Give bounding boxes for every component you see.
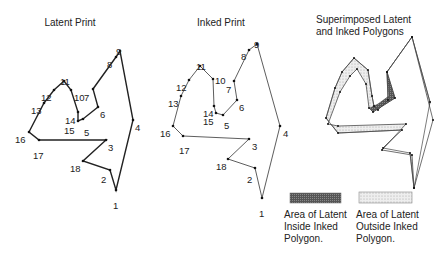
legend-swatch-inside [290, 193, 341, 203]
latent-print-polygon: 123456789101112131415161718 [15, 46, 140, 211]
legend-swatch-outside [359, 192, 412, 203]
point-label: 11 [196, 61, 206, 72]
superimposed-title-line2: and Inked Polygons [316, 26, 436, 38]
superimposed-polygons [325, 36, 434, 189]
minutia-point [222, 114, 225, 117]
minutia-point [233, 80, 236, 83]
minutia-point [236, 99, 239, 102]
minutia-point [213, 105, 216, 108]
point-label: 4 [135, 122, 140, 133]
point-label: 6 [239, 102, 244, 113]
minutia-point [92, 88, 95, 91]
point-label: 6 [100, 109, 105, 120]
minutia-point [132, 119, 135, 122]
point-label: 2 [101, 174, 106, 185]
point-label: 7 [84, 92, 89, 103]
minutia-point [105, 139, 108, 142]
latent-print-title: Latent Print [20, 17, 120, 29]
inked-print-title: Inked Print [176, 17, 266, 29]
point-label: 17 [33, 150, 44, 161]
minutia-point [279, 125, 282, 128]
point-label: 12 [176, 82, 187, 93]
point-label: 5 [224, 120, 229, 131]
superimposed-title: Superimposed Latent and Inked Polygons [316, 14, 436, 38]
inked-print-polygon: 123456789101112131415161718 [160, 39, 288, 219]
point-label: 15 [203, 116, 214, 127]
minutia-point [248, 138, 251, 141]
minutia-point [248, 49, 251, 52]
legend-inside-label: Area of Latent Inside Inked Polygon. [284, 209, 347, 245]
point-label: 10 [215, 75, 226, 86]
minutia-point [254, 167, 257, 170]
point-label: 12 [41, 92, 52, 103]
point-label: 9 [254, 39, 259, 50]
point-label: 1 [113, 200, 118, 211]
minutia-point [172, 125, 175, 128]
point-label: 13 [31, 105, 42, 116]
point-label: 18 [216, 161, 227, 172]
minutia-point [215, 112, 218, 115]
point-label: 17 [179, 145, 190, 156]
minutia-point [38, 139, 41, 142]
point-label: 11 [60, 76, 70, 87]
minutia-point [261, 197, 264, 200]
minutia-point [28, 131, 31, 134]
point-label: 16 [160, 128, 171, 139]
minutia-point [109, 169, 112, 172]
point-label: 5 [84, 127, 89, 138]
point-label: 18 [70, 163, 81, 174]
minutia-point [82, 160, 85, 163]
minutia-point [70, 89, 73, 92]
minutia-point [188, 79, 191, 82]
minutia-point [77, 120, 80, 123]
point-label: 4 [283, 128, 288, 139]
point-label: 3 [108, 142, 113, 153]
point-label: 7 [226, 84, 231, 95]
point-label: 2 [247, 174, 252, 185]
minutia-point [180, 95, 183, 98]
minutia-point [115, 189, 118, 192]
minutia-point [82, 118, 85, 121]
point-label: 8 [241, 51, 246, 62]
minutia-point [227, 158, 230, 161]
point-label: 8 [107, 59, 112, 70]
point-label: 9 [116, 46, 121, 57]
minutia-point [43, 102, 46, 105]
point-label: 3 [252, 141, 257, 152]
point-label: 13 [168, 98, 179, 109]
point-label: 16 [15, 134, 26, 145]
minutia-point [77, 111, 80, 114]
point-label: 1 [259, 208, 264, 219]
point-label: 15 [64, 125, 75, 136]
point-label: 10 [74, 92, 85, 103]
superimposed-title-line1: Superimposed Latent [316, 14, 436, 26]
minutia-point [53, 89, 56, 92]
minutia-point [182, 135, 185, 138]
minutia-point [97, 106, 100, 109]
minutia-point [212, 78, 215, 81]
legend-outside-label: Area of Latent Outside Inked Polygon. [356, 209, 419, 245]
